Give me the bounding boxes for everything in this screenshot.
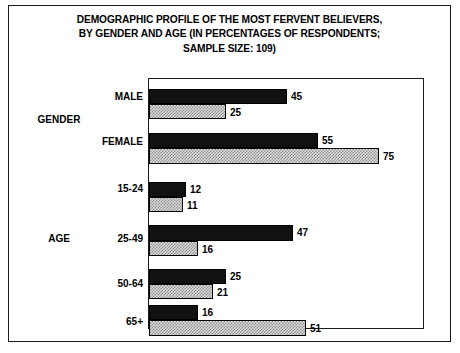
- bar-15-24-gray: [149, 197, 183, 212]
- bar-value-65plus-gray: 51: [310, 323, 321, 334]
- bar-50-64-black: [149, 269, 226, 284]
- chart-figure: DEMOGRAPHIC PROFILE OF THE MOST FERVENT …: [8, 5, 451, 342]
- cat-label-female: FEMALE: [102, 136, 143, 147]
- bar-15-24-black: [149, 182, 186, 197]
- bar-65plus-black: [149, 305, 198, 320]
- cat-label-50-64: 50-64: [117, 278, 143, 289]
- bar-value-65plus-black: 16: [202, 307, 213, 318]
- bar-value-female-black: 55: [322, 135, 333, 146]
- bars-layer: 45 25 55 75 12 11 47 16 25 21: [149, 79, 423, 328]
- cat-label-65plus: 65+: [126, 316, 143, 327]
- bar-value-male-gray: 25: [230, 107, 241, 118]
- bar-65plus-gray: [149, 320, 306, 336]
- bar-value-15-24-black: 12: [190, 184, 201, 195]
- bar-value-15-24-gray: 11: [187, 200, 198, 211]
- bar-value-25-49-gray: 16: [202, 244, 213, 255]
- bar-50-64-gray: [149, 284, 213, 299]
- cat-label-25-49: 25-49: [117, 233, 143, 244]
- chart-title: DEMOGRAPHIC PROFILE OF THE MOST FERVENT …: [9, 13, 450, 56]
- bar-female-black: [149, 133, 318, 148]
- cat-label-15-24: 15-24: [117, 183, 143, 194]
- bar-25-49-gray: [149, 241, 198, 256]
- plot-area: 45 25 55 75 12 11 47 16 25 21: [148, 78, 424, 329]
- category-axis-labels: MALE FEMALE 15-24 25-49 50-64 65+: [9, 78, 143, 329]
- bar-value-25-49-black: 47: [297, 227, 308, 238]
- bar-female-gray: [149, 148, 379, 164]
- bar-25-49-black: [149, 225, 293, 241]
- cat-label-male: MALE: [115, 91, 143, 102]
- bar-value-female-gray: 75: [383, 151, 394, 162]
- bar-value-male-black: 45: [291, 91, 302, 102]
- bar-male-gray: [149, 104, 226, 119]
- bar-value-50-64-black: 25: [230, 271, 241, 282]
- bar-value-50-64-gray: 21: [217, 287, 228, 298]
- bar-male-black: [149, 89, 287, 104]
